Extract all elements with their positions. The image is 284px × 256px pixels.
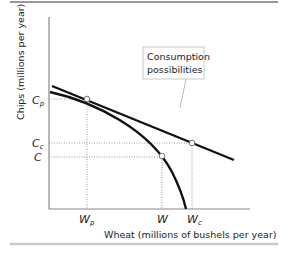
production-point [84, 96, 90, 102]
x-axis-title: Wheat (millions of bushels per year) [104, 229, 277, 240]
cc-label: Cc [32, 137, 44, 151]
ppf-curve [50, 92, 186, 209]
c-label: C [34, 151, 42, 164]
cp-label: Cp [32, 94, 45, 108]
consumption-point [189, 140, 195, 146]
no-trade-point [159, 153, 165, 159]
callout-leader [180, 79, 186, 108]
chart: Consumption possibilities Cp Cc C Wp W W… [0, 0, 284, 256]
callout-text-2: possibilities [147, 64, 203, 75]
callout-text-1: Consumption [147, 51, 210, 62]
y-axis-title: Chips (millions per year) [15, 4, 26, 120]
wp-label: Wp [79, 213, 95, 227]
consumption-possibilities-line [52, 86, 234, 160]
guide-lines [49, 99, 192, 209]
wc-label: Wc [187, 213, 202, 227]
w-label: W [157, 213, 169, 226]
